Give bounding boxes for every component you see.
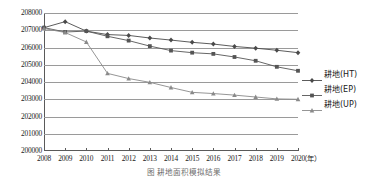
data-point-marker (84, 29, 88, 33)
data-point-marker (275, 65, 279, 69)
x-axis-tick-label: 2017 (228, 154, 242, 163)
x-axis-tick-label: 2015 (185, 154, 199, 163)
legend-item-3[interactable]: 耕地(UP) (302, 98, 368, 113)
legend-marker-square-icon (302, 86, 322, 95)
series-plot (44, 13, 298, 151)
data-point-marker (211, 52, 215, 56)
data-point-marker (310, 94, 314, 98)
data-point-marker (169, 49, 173, 53)
x-axis-tick-label: 2009 (58, 154, 72, 163)
y-axis-tick-label: 202000 (21, 113, 42, 121)
x-axis-tick-label: 2014 (164, 154, 178, 163)
data-point-marker (233, 55, 237, 59)
data-point-marker (106, 34, 110, 38)
data-point-marker (296, 69, 300, 73)
legend-marker-diamond-icon (302, 71, 322, 80)
legend-marker-triangle-icon (302, 101, 322, 110)
data-point-marker (148, 44, 152, 48)
x-axis-title: （年） (300, 154, 321, 163)
data-point-marker (253, 46, 258, 51)
x-axis-tick-label: 2008 (37, 154, 51, 163)
data-point-marker (232, 44, 237, 49)
y-axis-tick-label: 208000 (21, 9, 42, 17)
data-point-marker (254, 59, 258, 63)
y-axis-tick-label: 204000 (21, 78, 42, 86)
legend-label: 耕地(HT) (324, 68, 357, 81)
y-axis-tick-label: 207000 (21, 26, 42, 34)
data-point-marker (126, 33, 131, 38)
x-axis-tick-label: 2016 (206, 154, 220, 163)
data-point-marker (296, 50, 301, 55)
legend-label: 耕地(EP) (324, 83, 356, 96)
y-axis-tick-label: 203000 (21, 95, 42, 103)
data-point-marker (211, 42, 216, 47)
x-axis-tick-label: 2019 (270, 154, 284, 163)
y-axis-tick-label: 206000 (21, 44, 42, 52)
series-3 (42, 26, 301, 101)
legend-item-2[interactable]: 耕地(EP) (302, 83, 368, 98)
figure-caption: 图 耕地面积模拟结果 (0, 168, 368, 177)
series-line (44, 22, 298, 53)
figure-container: 2080002070002060002050002040002030002020… (0, 0, 368, 177)
data-point-marker (169, 38, 174, 43)
x-axis-tick-label: 2018 (249, 154, 263, 163)
x-axis-tick-label: 2013 (143, 154, 157, 163)
data-point-marker (190, 40, 195, 45)
legend-label: 耕地(UP) (324, 98, 357, 111)
legend-item-1[interactable]: 耕地(HT) (302, 68, 368, 83)
x-axis-tick-label: 2012 (122, 154, 136, 163)
series-2 (42, 26, 300, 73)
x-axis-tick-label: 2011 (101, 154, 115, 163)
legend: 耕地(HT)耕地(EP)耕地(UP) (302, 68, 368, 113)
data-point-marker (63, 19, 68, 24)
x-axis-tick-label: 2010 (79, 154, 93, 163)
data-point-marker (275, 48, 280, 53)
x-axis-tick-mark (298, 148, 299, 151)
data-point-marker (127, 39, 131, 43)
y-axis-tick-label: 205000 (21, 61, 42, 69)
y-axis-tick-label: 201000 (21, 130, 42, 138)
data-point-marker (148, 36, 153, 41)
data-point-marker (190, 51, 194, 55)
